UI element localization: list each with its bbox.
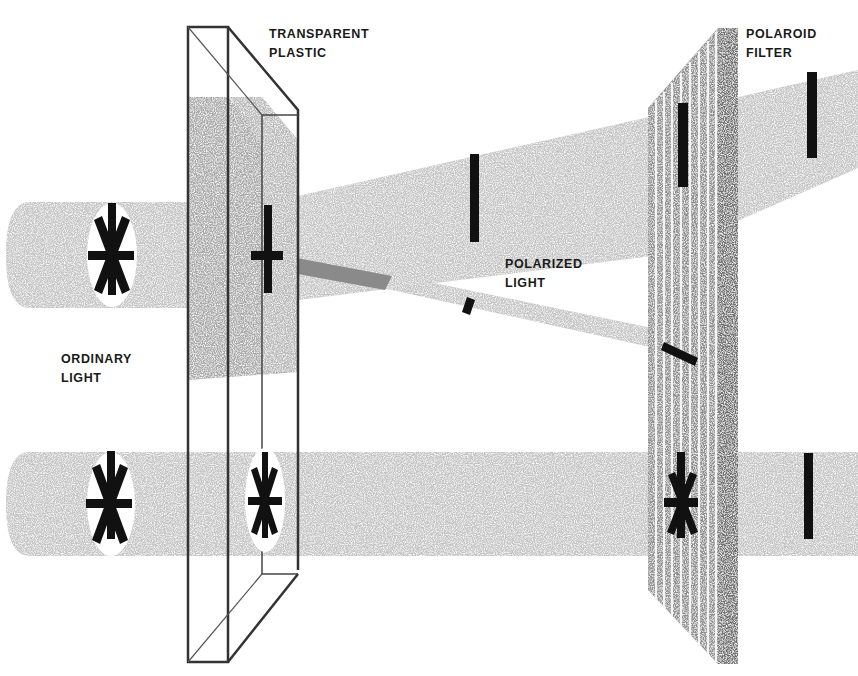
label-polaroid-filter: POLAROID FILTER [746,25,817,63]
label-line: LIGHT [61,369,132,388]
label-line: PLASTIC [269,44,369,63]
label-line: ORDINARY [61,350,132,369]
vertical-polarization-bar-icon [807,72,817,158]
label-line: TRANSPARENT [269,25,369,44]
label-ordinary-light: ORDINARY LIGHT [61,350,132,388]
label-line: LIGHT [505,274,583,293]
label-transparent-plastic: TRANSPARENT PLASTIC [269,25,369,63]
transparent-plastic-block [188,27,298,662]
vertical-polarization-bar-icon [804,453,813,539]
label-line: POLARIZED [505,255,583,274]
upper-ordinary-beam [6,202,190,308]
transmitted-beam-lower [738,452,858,556]
label-line: POLAROID [746,25,817,44]
polarization-diagram [0,0,858,676]
label-line: FILTER [746,44,817,63]
vertical-polarization-bar-icon [678,103,688,187]
lower-ordinary-beam [6,451,660,556]
label-polarized-light: POLARIZED LIGHT [505,255,583,293]
polaroid-filter [648,28,738,664]
vertical-polarization-bar-icon [470,154,479,242]
